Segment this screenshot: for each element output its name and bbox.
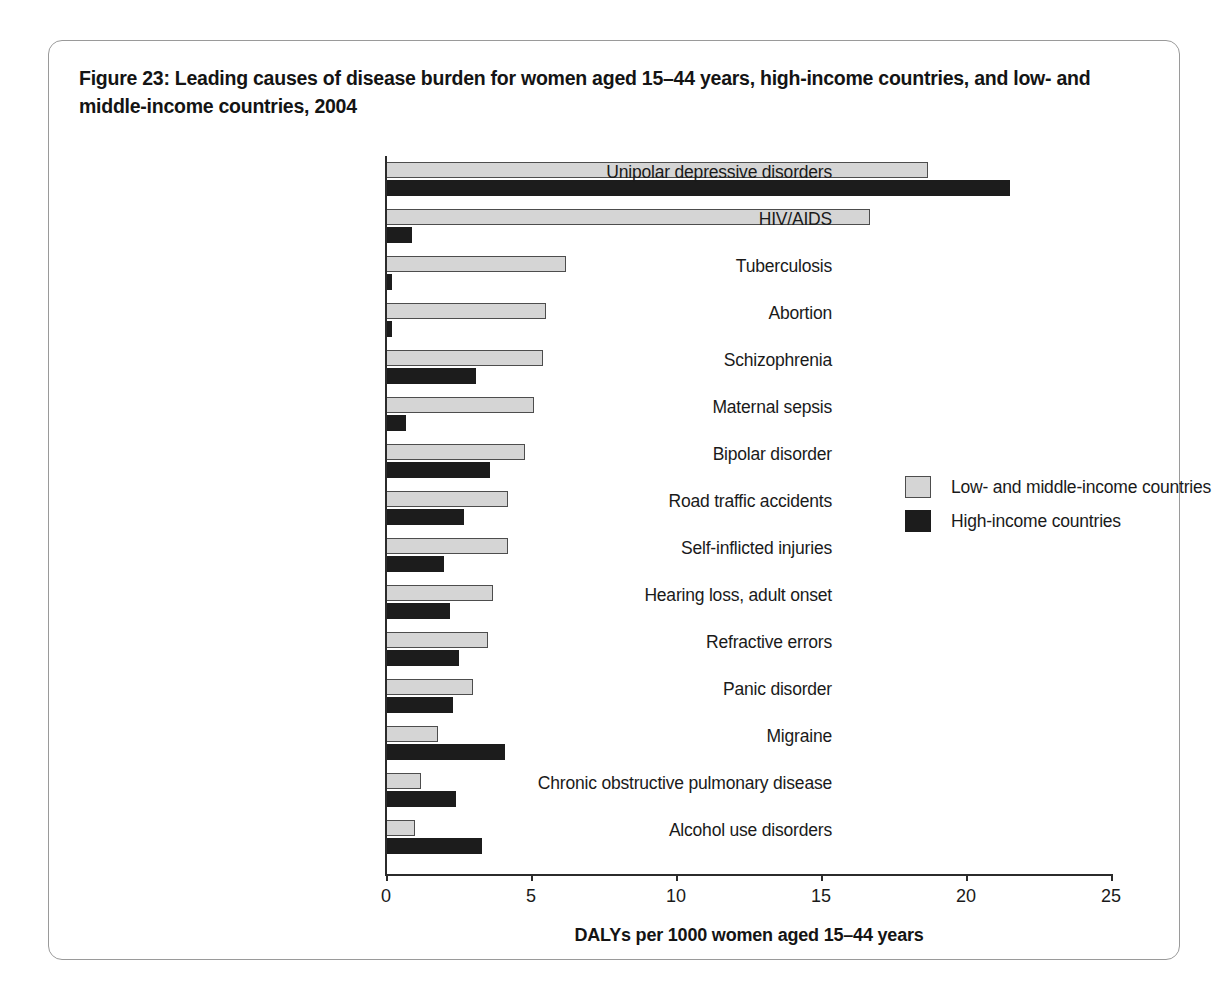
x-axis-line xyxy=(386,874,1112,876)
x-axis-title: DALYs per 1000 women aged 15–44 years xyxy=(386,925,1112,946)
x-axis-tick xyxy=(386,874,388,881)
x-axis-tick-label: 20 xyxy=(936,886,996,907)
bar-hic xyxy=(386,838,482,854)
legend-swatch-icon-lmic xyxy=(905,476,931,498)
category-label: Hearing loss, adult onset xyxy=(502,585,832,606)
x-axis-tick xyxy=(531,874,533,881)
x-axis-tick-label: 5 xyxy=(501,886,561,907)
category-label: Migraine xyxy=(502,726,832,747)
chart-plot-area: 0510152025 DALYs per 1000 women aged 15–… xyxy=(49,41,1181,961)
category-label: Refractive errors xyxy=(502,632,832,653)
category-label: Chronic obstructive pulmonary disease xyxy=(502,773,832,794)
bar-hic xyxy=(386,462,490,478)
legend-swatch-icon-hic xyxy=(905,510,931,532)
bar-hic xyxy=(386,556,444,572)
bar-lmic xyxy=(386,773,421,789)
bar-lmic xyxy=(386,820,415,836)
x-axis-tick-label: 15 xyxy=(791,886,851,907)
category-label: Road traffic accidents xyxy=(502,491,832,512)
category-label: Tuberculosis xyxy=(502,256,832,277)
category-label: Self-inflicted injuries xyxy=(502,538,832,559)
x-axis-tick-label: 25 xyxy=(1081,886,1141,907)
bar-hic xyxy=(386,368,476,384)
bar-hic xyxy=(386,744,505,760)
x-axis-tick xyxy=(676,874,678,881)
category-label: Schizophrenia xyxy=(502,350,832,371)
chart-legend: Low- and middle-income countries High-in… xyxy=(905,470,1211,538)
category-label: Abortion xyxy=(502,303,832,324)
x-axis-tick xyxy=(966,874,968,881)
bar-hic xyxy=(386,509,464,525)
bar-lmic xyxy=(386,726,438,742)
bar-hic xyxy=(386,650,459,666)
legend-item-hic: High-income countries xyxy=(905,504,1211,538)
bar-lmic xyxy=(386,491,508,507)
bar-hic xyxy=(386,415,406,431)
category-label: Panic disorder xyxy=(502,679,832,700)
x-axis-tick-label: 0 xyxy=(356,886,416,907)
bar-hic xyxy=(386,603,450,619)
bar-lmic xyxy=(386,538,508,554)
bar-lmic xyxy=(386,585,493,601)
y-axis-line xyxy=(385,156,387,876)
bar-lmic xyxy=(386,632,488,648)
category-label: Unipolar depressive disorders xyxy=(502,162,832,183)
bar-lmic xyxy=(386,679,473,695)
legend-label-hic: High-income countries xyxy=(951,511,1121,532)
category-label: Alcohol use disorders xyxy=(502,820,832,841)
bar-hic xyxy=(386,791,456,807)
category-label: HIV/AIDS xyxy=(502,209,832,230)
x-axis-tick xyxy=(821,874,823,881)
category-label: Maternal sepsis xyxy=(502,397,832,418)
legend-item-lmic: Low- and middle-income countries xyxy=(905,470,1211,504)
bar-hic xyxy=(386,697,453,713)
figure-container: Figure 23: Leading causes of disease bur… xyxy=(48,40,1180,960)
category-label: Bipolar disorder xyxy=(502,444,832,465)
x-axis-tick xyxy=(1111,874,1113,881)
legend-label-lmic: Low- and middle-income countries xyxy=(951,477,1211,498)
bar-hic xyxy=(386,227,412,243)
x-axis-tick-label: 10 xyxy=(646,886,706,907)
